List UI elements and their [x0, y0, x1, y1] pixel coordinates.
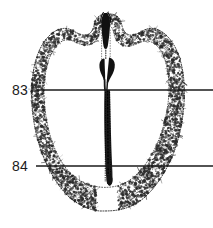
bifurcated-dark-body [99, 57, 114, 90]
superior-dark-process [101, 13, 111, 49]
section-level-lines [36, 90, 213, 166]
midline-dark-band [104, 90, 113, 186]
anatomical-section-figure [0, 0, 213, 228]
section-label-83: 83 [12, 83, 28, 97]
figure-container: 83 84 [0, 0, 213, 228]
section-label-84: 84 [12, 159, 28, 173]
